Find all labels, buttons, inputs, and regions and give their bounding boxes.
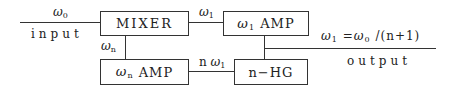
omegan-amp-label: AMP — [139, 65, 173, 80]
output-equation: ω1 =ω0 /(n+1) — [321, 30, 420, 44]
omega1-amp-label: AMP — [260, 16, 294, 31]
mixer-to-namp-label: ωn — [101, 40, 116, 54]
mixer-to-amp-label: ω1 — [199, 6, 214, 20]
nhg-label: n−HG — [249, 65, 294, 80]
output-caption: output — [347, 55, 411, 67]
nhg-block: n−HG — [234, 59, 308, 85]
omegan-symbol: ωn — [116, 64, 134, 80]
input-caption: input — [31, 28, 83, 40]
namp-to-hg-line — [188, 71, 234, 72]
output-line — [264, 48, 436, 49]
mixer-to-namp-line — [125, 35, 126, 59]
omega1-symbol: ω1 — [237, 16, 255, 32]
mixer-to-amp-line — [188, 22, 223, 23]
input-line — [20, 22, 100, 23]
omegan-amp-block: ωn AMP — [100, 59, 189, 85]
omega1-amp-block: ω1 AMP — [223, 11, 309, 36]
mixer-label: MIXER — [116, 16, 173, 31]
amp-to-hg-line — [264, 35, 265, 59]
input-signal-label: ω0 — [53, 6, 68, 20]
hg-to-namp-label: n ω1 — [199, 56, 225, 70]
mixer-block: MIXER — [100, 11, 189, 36]
